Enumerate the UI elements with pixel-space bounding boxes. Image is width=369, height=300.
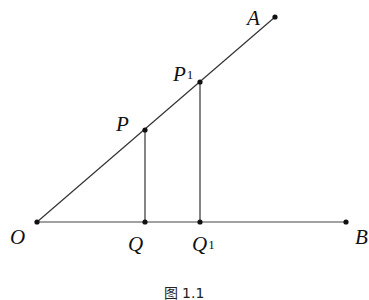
point-P1 [197,79,202,84]
label-P1-subscript: 1 [187,67,194,82]
label-P: P [115,112,129,136]
label-P1: P1 [172,62,193,86]
point-A [272,14,277,19]
point-Q1 [197,219,202,224]
label-O: O [10,225,25,249]
point-Q [142,219,147,224]
label-Q: Q [128,232,143,256]
label-B: B [355,225,368,249]
ray-OA [37,17,275,222]
point-P [142,127,147,132]
label-Q1: Q1 [192,232,215,256]
point-O [34,219,39,224]
label-Q1-main: Q [192,232,207,256]
label-A: A [245,6,260,30]
point-B [343,219,348,224]
label-Q1-subscript: 1 [208,237,215,252]
label-P1-main: P [172,62,186,86]
geometry-figure: O P P1 A Q Q1 B 图 1.1 [0,0,369,300]
figure-caption: 图 1.1 [164,285,205,300]
